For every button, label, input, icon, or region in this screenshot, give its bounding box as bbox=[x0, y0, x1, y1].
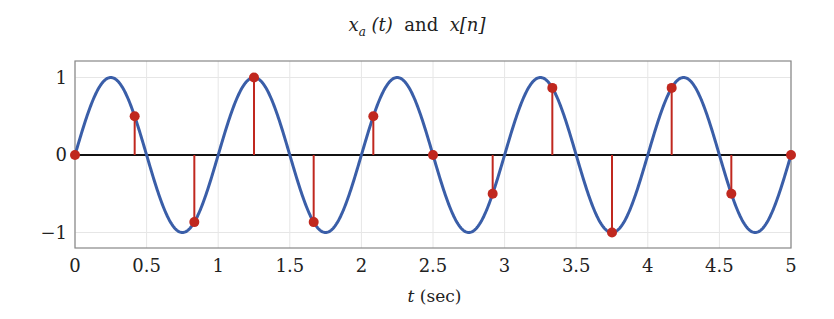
x-axis-var: t bbox=[408, 286, 415, 306]
sample-marker bbox=[368, 111, 378, 121]
sample-marker bbox=[249, 73, 259, 83]
x-tick-label: 3.5 bbox=[562, 255, 591, 276]
y-tick-label: 1 bbox=[56, 67, 67, 88]
sample-marker bbox=[786, 150, 796, 160]
x-tick-label: 5 bbox=[785, 255, 796, 276]
sample-marker bbox=[309, 217, 319, 227]
x-tick-label: 4.5 bbox=[705, 255, 734, 276]
x-tick-label: 1.5 bbox=[275, 255, 304, 276]
sample-marker bbox=[488, 189, 498, 199]
x-axis-unit: (sec) bbox=[420, 286, 462, 306]
x-tick-label: 0 bbox=[69, 255, 80, 276]
x-tick-label: 1 bbox=[212, 255, 223, 276]
sample-marker bbox=[428, 150, 438, 160]
sample-marker bbox=[189, 217, 199, 227]
sample-marker bbox=[607, 228, 617, 238]
sample-marker bbox=[130, 111, 140, 121]
x-tick-label: 4 bbox=[642, 255, 653, 276]
y-tick-label: 0 bbox=[56, 144, 67, 165]
x-tick-label: 2 bbox=[356, 255, 367, 276]
sample-marker bbox=[726, 189, 736, 199]
sample-marker bbox=[667, 83, 677, 93]
sample-marker bbox=[70, 150, 80, 160]
plot-area: 00.511.522.533.544.5510−1 bbox=[0, 0, 834, 319]
x-tick-label: 2.5 bbox=[419, 255, 448, 276]
x-axis-label: t (sec) bbox=[0, 286, 834, 306]
x-tick-label: 0.5 bbox=[132, 255, 161, 276]
sample-marker bbox=[547, 83, 557, 93]
y-tick-label: −1 bbox=[40, 222, 67, 243]
x-tick-label: 3 bbox=[499, 255, 510, 276]
